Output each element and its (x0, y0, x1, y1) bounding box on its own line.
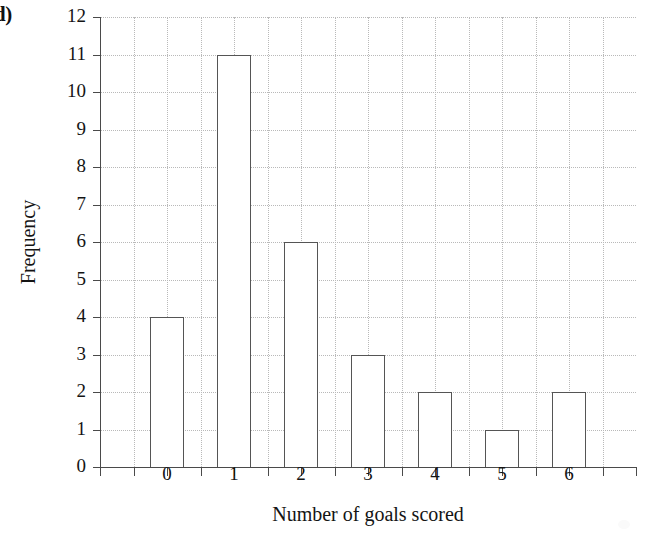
gridline-vertical (201, 17, 202, 467)
gridline-vertical (134, 17, 135, 467)
y-axis-tick-label: 11 (0, 43, 86, 65)
x-axis-tick-label: 6 (544, 463, 594, 485)
y-axis-tick-label: 0 (0, 455, 86, 477)
y-axis-tick-label: 2 (0, 380, 86, 402)
gridline-horizontal (100, 92, 636, 93)
bar (552, 392, 586, 467)
y-axis-tick (93, 280, 101, 281)
gridline-vertical (536, 17, 537, 467)
y-axis-tick (93, 317, 101, 318)
x-axis-tick-label: 2 (276, 463, 326, 485)
gridline-vertical (469, 17, 470, 467)
x-axis-tick-label: 5 (477, 463, 527, 485)
bar (284, 242, 318, 467)
y-axis-tick-label: 4 (0, 305, 86, 327)
gridline-horizontal (100, 205, 636, 206)
bar (351, 355, 385, 468)
x-axis-tick-label: 1 (209, 463, 259, 485)
x-axis-tick-label: 0 (142, 463, 192, 485)
y-axis-tick (93, 17, 101, 18)
gridline-vertical (335, 17, 336, 467)
y-axis-tick-label: 3 (0, 343, 86, 365)
gridline-vertical (603, 17, 604, 467)
y-axis-tick (93, 242, 101, 243)
gridline-horizontal (100, 167, 636, 168)
x-axis-tick (100, 467, 101, 476)
y-axis-tick (93, 55, 101, 56)
x-axis-tick (603, 467, 604, 476)
plot-area (100, 17, 636, 467)
gridline-vertical (402, 17, 403, 467)
gridline-vertical (268, 17, 269, 467)
gridline-horizontal (100, 280, 636, 281)
x-axis-tick (335, 467, 336, 476)
gridline-horizontal (100, 55, 636, 56)
y-axis-tick-label: 10 (0, 80, 86, 102)
x-axis-tick (469, 467, 470, 476)
x-axis-tick (536, 467, 537, 476)
y-axis-tick-label: 12 (0, 5, 86, 27)
bar (150, 317, 184, 467)
y-axis-tick-label: 1 (0, 418, 86, 440)
x-axis-tick (134, 467, 135, 476)
y-axis-tick-label: 5 (0, 268, 86, 290)
scan-artifact (618, 520, 630, 529)
y-axis-tick (93, 92, 101, 93)
bar-chart-figure: d) Frequency Number of goals scored 0123… (0, 0, 646, 537)
y-axis-tick (93, 355, 101, 356)
gridline-horizontal (100, 130, 636, 131)
x-axis-tick (268, 467, 269, 476)
bar (418, 392, 452, 467)
x-axis-tick-label: 4 (410, 463, 460, 485)
y-axis-tick (93, 430, 101, 431)
y-axis-tick (93, 167, 101, 168)
gridline-horizontal (100, 17, 636, 18)
y-axis-tick (93, 205, 101, 206)
y-axis-tick (93, 392, 101, 393)
y-axis-tick-label: 7 (0, 193, 86, 215)
x-axis-tick-label: 3 (343, 463, 393, 485)
gridline-vertical (502, 17, 503, 467)
x-axis-tick (636, 467, 637, 476)
x-axis-tick (201, 467, 202, 476)
y-axis-tick (93, 130, 101, 131)
x-axis-title: Number of goals scored (100, 503, 636, 526)
x-axis-tick (402, 467, 403, 476)
y-axis-tick-label: 6 (0, 230, 86, 252)
bar (485, 430, 519, 468)
gridline-horizontal (100, 242, 636, 243)
bar (217, 55, 251, 468)
y-axis-tick-label: 8 (0, 155, 86, 177)
y-axis-tick-label: 9 (0, 118, 86, 140)
